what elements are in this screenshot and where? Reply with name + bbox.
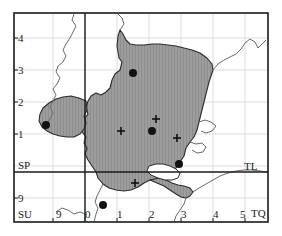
- distribution-map: 4 3 2 1 9 SP TL SU TQ 9 0 1 2 3 4 5: [0, 0, 282, 236]
- y-tick-label-4: 4: [18, 33, 24, 44]
- x-tick-label-0: 0: [85, 209, 91, 220]
- x-tick-label-2: 2: [149, 209, 155, 220]
- dot-marker: [42, 121, 50, 129]
- x-tick-label-3: 3: [181, 209, 187, 220]
- x-tick-label-9: 9: [56, 209, 62, 220]
- square-label-sp: SP: [18, 160, 30, 171]
- square-label-su: SU: [18, 209, 32, 220]
- map-canvas: [0, 0, 282, 236]
- dot-marker: [175, 160, 183, 168]
- y-tick-label-3: 3: [18, 65, 24, 76]
- dot-marker: [129, 69, 137, 77]
- y-tick-label-2: 2: [18, 97, 24, 108]
- x-tick-label-5: 5: [240, 209, 246, 220]
- x-tick-label-4: 4: [213, 209, 219, 220]
- x-tick-label-1: 1: [117, 209, 123, 220]
- y-tick-label-1: 1: [18, 129, 24, 140]
- square-label-tl: TL: [244, 161, 257, 172]
- y-tick-label-9: 9: [18, 193, 24, 204]
- dot-marker: [99, 201, 107, 209]
- dot-marker: [148, 127, 156, 135]
- square-label-tq: TQ: [251, 208, 266, 219]
